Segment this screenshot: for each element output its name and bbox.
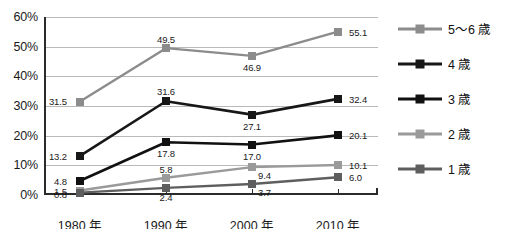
y-axis-tick-label: 20% — [14, 129, 38, 143]
legend-label: 4 歳 — [448, 54, 471, 73]
data-point-label: 17.0 — [243, 150, 261, 161]
plot-area: 0%10%20%30%40%50%60% 1980 年1990 年2000 年2… — [44, 17, 378, 195]
y-axis-tick-label: 10% — [14, 158, 38, 172]
legend-marker — [416, 59, 425, 68]
series-line — [80, 99, 338, 156]
data-point-marker — [162, 97, 170, 105]
legend-swatch-icon — [398, 163, 442, 175]
legend-marker — [416, 94, 425, 103]
x-axis-tick-label: 1980 年 — [58, 215, 102, 229]
legend-marker — [416, 164, 425, 173]
y-axis-tick-label: 40% — [14, 69, 38, 83]
legend-marker — [416, 129, 425, 138]
series-line — [80, 32, 338, 102]
chart-legend: 5～6 歳4 歳3 歳2 歳1 歳 — [398, 20, 502, 195]
legend-item-4[interactable]: 2 歳 — [398, 125, 502, 142]
legend-label: 5～6 歳 — [448, 19, 491, 38]
data-point-label: 9.4 — [258, 170, 271, 181]
legend-swatch-icon — [398, 58, 442, 70]
legend-item-2[interactable]: 4 歳 — [398, 55, 502, 72]
data-point-marker — [334, 95, 342, 103]
data-point-label: 31.6 — [157, 86, 175, 97]
data-point-marker — [76, 98, 84, 106]
data-point-label: 49.5 — [157, 34, 175, 45]
data-point-label: 55.1 — [349, 26, 367, 37]
data-point-marker — [248, 111, 256, 119]
legend-item-1[interactable]: 5～6 歳 — [398, 20, 502, 37]
data-point-marker — [162, 174, 170, 182]
data-point-label: 46.9 — [243, 61, 261, 72]
legend-label: 1 歳 — [448, 159, 471, 178]
legend-swatch-icon — [398, 93, 442, 105]
y-axis-tick-label: 0% — [20, 188, 38, 202]
series-lines — [44, 17, 378, 195]
data-point-label: 2.4 — [160, 191, 173, 202]
data-point-label: 10.1 — [349, 160, 367, 171]
data-point-label: 6.0 — [349, 172, 362, 183]
legend-item-5[interactable]: 1 歳 — [398, 160, 502, 177]
data-point-marker — [162, 44, 170, 52]
data-point-marker — [334, 131, 342, 139]
data-point-marker — [334, 161, 342, 169]
x-axis-tick-label: 1990 年 — [144, 215, 188, 229]
data-point-label: 20.1 — [349, 130, 367, 141]
y-axis-tick-label: 50% — [14, 40, 38, 54]
data-point-label: 27.1 — [243, 120, 261, 131]
data-point-marker — [334, 28, 342, 36]
data-point-label: 5.8 — [160, 163, 173, 174]
legend-swatch-icon — [398, 23, 442, 35]
series-line — [80, 135, 338, 180]
data-point-marker — [76, 189, 84, 197]
y-axis-tick-label: 30% — [14, 99, 38, 113]
legend-item-3[interactable]: 3 歳 — [398, 90, 502, 107]
data-point-label: 13.2 — [49, 150, 67, 161]
data-point-label: 31.5 — [49, 95, 67, 106]
data-point-marker — [248, 180, 256, 188]
y-axis-tick-label: 60% — [14, 10, 38, 24]
data-point-label: 3.7 — [258, 187, 271, 198]
legend-marker — [416, 24, 425, 33]
data-point-label: 32.4 — [349, 93, 367, 104]
data-point-marker — [334, 173, 342, 181]
legend-label: 3 歳 — [448, 89, 471, 108]
data-point-marker — [248, 52, 256, 60]
legend-label: 2 歳 — [448, 124, 471, 143]
x-axis-tick-label: 2010 年 — [316, 215, 360, 229]
data-point-label: 0.8 — [54, 188, 67, 199]
data-point-marker — [248, 163, 256, 171]
x-axis-tick-label: 2000 年 — [230, 215, 274, 229]
legend-swatch-icon — [398, 128, 442, 140]
data-point-marker — [248, 141, 256, 149]
data-point-marker — [76, 152, 84, 160]
line-chart: 0%10%20%30%40%50%60% 1980 年1990 年2000 年2… — [0, 0, 507, 229]
data-point-marker — [76, 177, 84, 185]
data-point-label: 17.8 — [157, 148, 175, 159]
data-point-marker — [162, 138, 170, 146]
